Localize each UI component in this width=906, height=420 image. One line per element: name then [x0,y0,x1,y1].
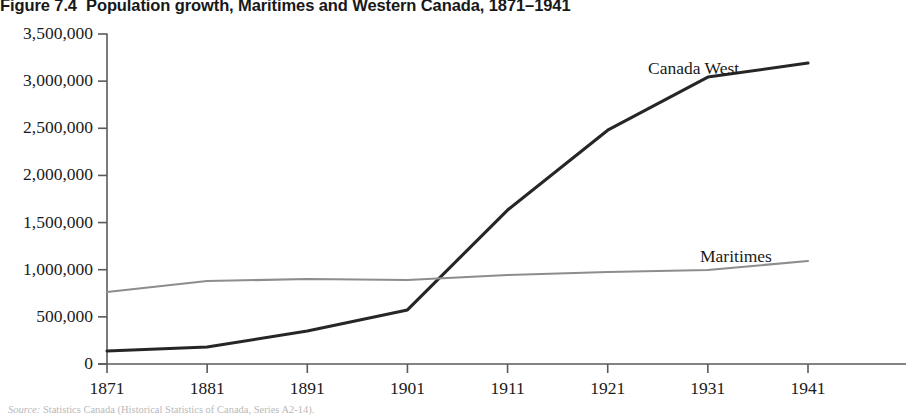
maritimes-label: Maritimes [700,246,772,267]
y-axis-tick-label: 0 [0,353,93,374]
x-axis-tick-label: 1891 [267,378,347,399]
x-axis-tick-label: 1881 [167,378,247,399]
x-axis-tick-label: 1921 [568,378,648,399]
y-axis-tick-label: 2,000,000 [0,164,93,185]
x-axis-tick-label: 1931 [668,378,748,399]
x-axis-tick-label: 1871 [67,378,147,399]
source-label: Source: [8,404,40,415]
figure-container: Figure 7.4Population growth, Maritimes a… [0,0,906,420]
y-axis-tick-label: 2,500,000 [0,117,93,138]
series-line-canada-west [107,63,808,351]
line-chart-svg [0,0,906,400]
x-axis-tick-label: 1901 [367,378,447,399]
y-axis-tick-label: 1,000,000 [0,259,93,280]
y-axis-tick-label: 3,000,000 [0,70,93,91]
source-text: Statistics Canada (Historical Statistics… [43,404,315,415]
canada-west-label: Canada West [648,58,739,79]
y-axis-tick-label: 3,500,000 [0,23,93,44]
x-axis-tick-label: 1941 [768,378,848,399]
y-axis-tick-label: 1,500,000 [0,212,93,233]
x-axis-tick-label: 1911 [468,378,548,399]
source-note: Source: Statistics Canada (Historical St… [8,404,314,415]
chart-plot-area: 0500,0001,000,0001,500,0002,000,0002,500… [0,0,906,400]
y-axis-tick-label: 500,000 [0,306,93,327]
